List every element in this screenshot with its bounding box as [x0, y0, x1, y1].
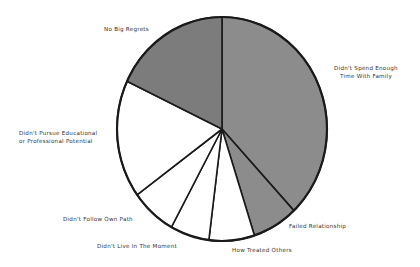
label-spend-time-line1: Didn't Spend Enough — [328, 64, 404, 72]
label-live-moment: Didn't Live In The Moment — [97, 242, 177, 250]
label-pursue-potential: Didn't Pursue Educational or Professiona… — [19, 129, 97, 145]
label-how-treated: How Treated Others — [232, 246, 292, 254]
label-spend-time: Didn't Spend Enough Time With Family — [328, 64, 404, 80]
label-no-big-regrets: No Big Regrets — [104, 25, 149, 33]
label-pursue-line2: or Professional Potential — [19, 137, 97, 145]
label-follow-path: Didn't Follow Own Path — [63, 215, 133, 223]
label-pursue-line1: Didn't Pursue Educational — [19, 129, 97, 137]
label-spend-time-line2: Time With Family — [328, 72, 404, 80]
label-failed-relationship: Failed Relationship — [289, 222, 346, 230]
